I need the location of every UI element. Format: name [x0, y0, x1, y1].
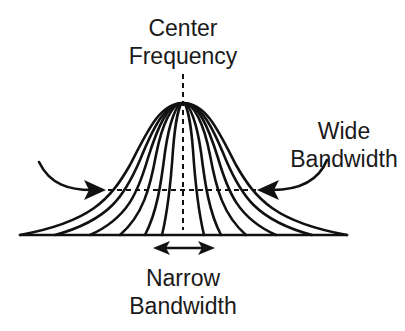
narrow-bandwidth-line1: Narrow — [120, 264, 246, 292]
wide-bandwidth-label: Wide Bandwidth — [282, 117, 405, 173]
center-frequency-line2: Frequency — [113, 42, 253, 70]
narrow-double-arrow-icon — [153, 241, 215, 255]
center-frequency-line1: Center — [113, 14, 253, 42]
left-arrow-icon — [39, 162, 106, 200]
wide-bandwidth-line2: Bandwidth — [282, 145, 405, 173]
narrow-bandwidth-label: Narrow Bandwidth — [120, 264, 246, 320]
wide-bandwidth-line1: Wide — [282, 117, 405, 145]
center-frequency-label: Center Frequency — [113, 14, 253, 70]
narrow-bandwidth-line2: Bandwidth — [120, 292, 246, 320]
